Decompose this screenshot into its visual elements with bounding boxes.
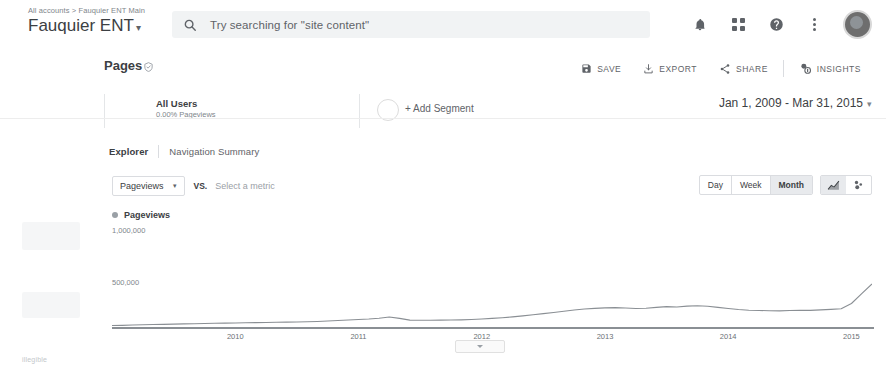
granularity-month-button[interactable]: Month [771, 176, 813, 194]
chevron-down-icon[interactable]: ▾ [136, 22, 141, 33]
chevron-up-icon [477, 345, 483, 348]
chart-legend: Pageviews [112, 210, 170, 220]
account-name-label: Fauquier ENT [28, 16, 134, 35]
segment-divider [104, 94, 105, 128]
granularity-day-button[interactable]: Day [700, 176, 732, 194]
x-axis-tick-label: 2010 [227, 332, 244, 341]
motion-chart-icon[interactable] [846, 176, 871, 194]
tab-navigation-summary[interactable]: Navigation Summary [159, 146, 269, 157]
chart-type-button-group [820, 175, 872, 195]
export-button[interactable]: EXPORT [632, 63, 708, 75]
search-input[interactable]: Try searching for "site content" [210, 19, 369, 31]
legend-color-dot [112, 212, 118, 218]
x-axis-tick-label: 2015 [843, 332, 860, 341]
toolbar-divider [783, 60, 784, 77]
x-axis-tick-label: 2014 [720, 332, 737, 341]
vs-label: VS. [194, 181, 208, 191]
primary-metric-label: Pageviews [120, 181, 164, 191]
report-title: Pages [104, 58, 142, 73]
page-title: Fauquier ENT▾ [28, 16, 145, 36]
section-divider [0, 118, 886, 119]
footer-artifact-text: illegible [22, 356, 47, 363]
top-bar-icon-group [691, 10, 872, 38]
insights-button[interactable]: INSIGHTS [788, 62, 872, 75]
avatar[interactable] [843, 10, 872, 39]
line-chart-icon[interactable] [821, 176, 846, 194]
secondary-metric-select[interactable]: Select a metric [215, 181, 275, 191]
pageviews-line-chart: 1,000,000 500,000 2010201120122013201420… [104, 226, 872, 338]
analytics-report-page: illegible All accounts > Fauquier ENT Ma… [0, 0, 886, 376]
export-label: EXPORT [659, 64, 697, 74]
tab-explorer[interactable]: Explorer [104, 146, 158, 157]
x-axis-tick-label: 2013 [597, 332, 614, 341]
save-button[interactable]: SAVE [570, 63, 632, 74]
x-axis-tick-label: 2011 [350, 332, 366, 341]
account-selector[interactable]: All accounts > Fauquier ENT Main Fauquie… [28, 6, 145, 36]
granularity-controls: Day Week Month [699, 175, 872, 195]
granularity-week-button[interactable]: Week [732, 176, 771, 194]
chevron-down-icon: ▾ [173, 182, 177, 190]
chart-plot-area[interactable] [112, 230, 872, 328]
save-label: SAVE [597, 64, 621, 74]
metric-selector-row: Pageviews ▾ VS. Select a metric [112, 176, 275, 196]
primary-metric-select[interactable]: Pageviews ▾ [112, 176, 185, 196]
apps-grid-icon[interactable] [729, 15, 747, 33]
search-icon [183, 18, 197, 32]
report-tabs: Explorer Navigation Summary [104, 145, 269, 158]
more-vertical-icon[interactable] [805, 15, 823, 33]
segment-divider [359, 94, 360, 128]
scan-artifact-block [22, 292, 80, 318]
segment-bar: All Users 0.00% Pageviews + Add Segment [104, 94, 664, 128]
share-label: SHARE [736, 64, 768, 74]
scan-artifact-block [22, 222, 80, 250]
share-button[interactable]: SHARE [708, 63, 779, 75]
notifications-bell-icon[interactable] [691, 15, 709, 33]
date-range-selector[interactable]: Jan 1, 2009 - Mar 31, 2015▾ [719, 96, 872, 110]
segment-name[interactable]: All Users [156, 98, 197, 109]
help-circle-icon[interactable] [767, 15, 785, 33]
date-range-label: Jan 1, 2009 - Mar 31, 2015 [719, 96, 863, 110]
report-actions-toolbar: SAVE EXPORT SHARE INSIGH [570, 60, 872, 77]
insights-label: INSIGHTS [817, 64, 861, 74]
legend-label[interactable]: Pageviews [124, 210, 170, 220]
chevron-down-icon: ▾ [867, 99, 872, 109]
top-navigation-bar: All accounts > Fauquier ENT Main Fauquie… [0, 0, 886, 48]
granularity-button-group: Day Week Month [699, 175, 813, 195]
search-bar[interactable]: Try searching for "site content" [172, 11, 650, 38]
add-segment-button[interactable]: + Add Segment [405, 103, 474, 114]
verified-shield-icon[interactable] [143, 59, 154, 77]
collapse-chart-handle[interactable] [455, 340, 505, 353]
breadcrumb: All accounts > Fauquier ENT Main [28, 6, 145, 15]
x-axis-line [112, 327, 874, 329]
